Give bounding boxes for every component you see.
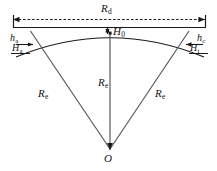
label-re-right: Re [155, 88, 165, 99]
label-ht-cap: Ht [190, 43, 199, 53]
figure-container: Rd H0 ha Ha hc Ht Re Re Re O [0, 0, 217, 171]
label-rd: Rd [101, 3, 111, 14]
label-ha-cap: Ha [12, 43, 22, 53]
radius-right-line [110, 31, 189, 149]
rd-dimension-line [14, 15, 206, 28]
label-re-center: Re [98, 77, 108, 88]
label-re-left: Re [38, 88, 48, 99]
geometry-drawing [0, 0, 217, 171]
label-hc-small: hc [197, 33, 205, 43]
label-h0: H0 [113, 26, 125, 37]
apex-point-marker [109, 32, 112, 35]
label-center-o: O [104, 153, 112, 164]
